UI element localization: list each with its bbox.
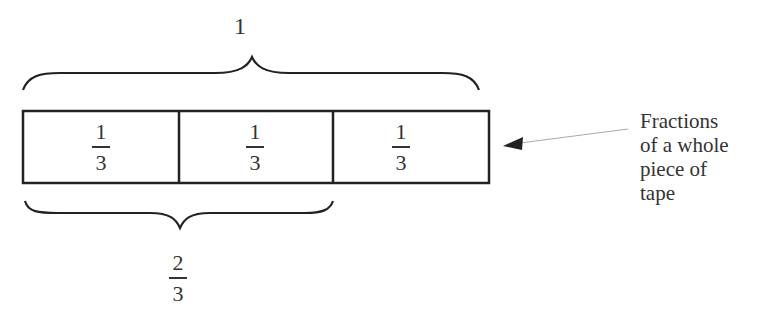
numerator: 1 bbox=[386, 121, 416, 143]
tape-caption: Fractions of a whole piece of tape bbox=[640, 109, 765, 205]
partial-brace bbox=[25, 201, 333, 228]
fraction-bar bbox=[246, 146, 264, 148]
numerator: 2 bbox=[163, 252, 193, 274]
segment-fraction-3: 1 3 bbox=[386, 121, 416, 174]
pointer-arrow-line bbox=[520, 129, 628, 143]
fraction-bar bbox=[92, 146, 110, 148]
segment-fraction-2: 1 3 bbox=[240, 121, 270, 174]
segment-fraction-1: 1 3 bbox=[86, 121, 116, 174]
fraction-bar bbox=[392, 146, 410, 148]
arrow-head-icon bbox=[503, 137, 523, 150]
denominator: 3 bbox=[163, 283, 193, 305]
fraction-bar bbox=[169, 277, 187, 279]
caption-line: of a whole bbox=[640, 133, 765, 157]
partial-brace-fraction: 2 3 bbox=[163, 252, 193, 305]
caption-line: tape bbox=[640, 181, 765, 205]
denominator: 3 bbox=[86, 152, 116, 174]
numerator: 1 bbox=[240, 121, 270, 143]
denominator: 3 bbox=[386, 152, 416, 174]
denominator: 3 bbox=[240, 152, 270, 174]
caption-line: piece of bbox=[640, 157, 765, 181]
whole-brace bbox=[23, 57, 479, 90]
numerator: 1 bbox=[86, 121, 116, 143]
whole-label: 1 bbox=[234, 13, 246, 40]
caption-line: Fractions bbox=[640, 109, 765, 133]
